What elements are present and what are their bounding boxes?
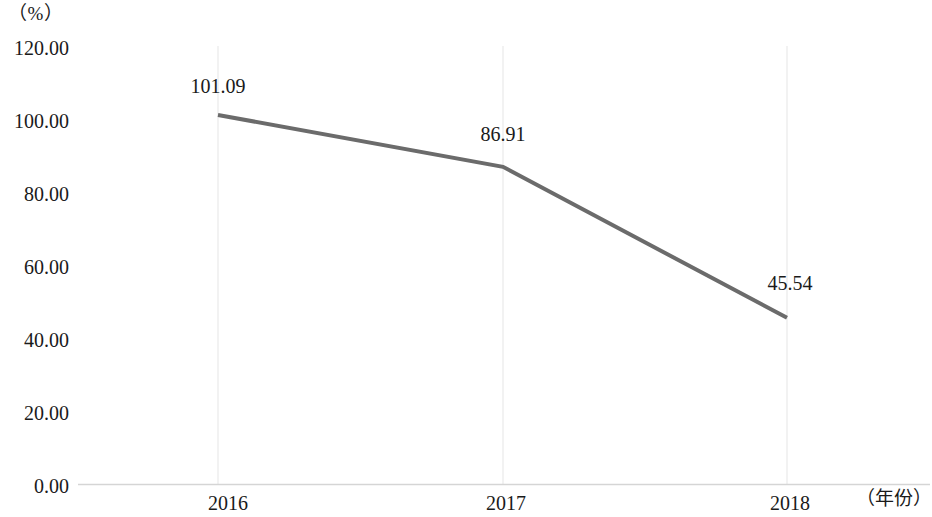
line-chart-figure: （%） （年份） 120.00 100.00 80.00 60.00 40.00…	[0, 0, 932, 517]
x-axis-tick-label-2018: 2018	[730, 492, 850, 514]
x-axis-tick-label-2017: 2017	[446, 492, 566, 514]
x-axis-tick-label-2016: 2016	[168, 492, 288, 514]
data-label-2016: 101.09	[148, 76, 288, 96]
data-label-2017: 86.91	[433, 124, 573, 144]
plot-area	[0, 0, 932, 517]
data-label-2018: 45.54	[720, 273, 860, 293]
